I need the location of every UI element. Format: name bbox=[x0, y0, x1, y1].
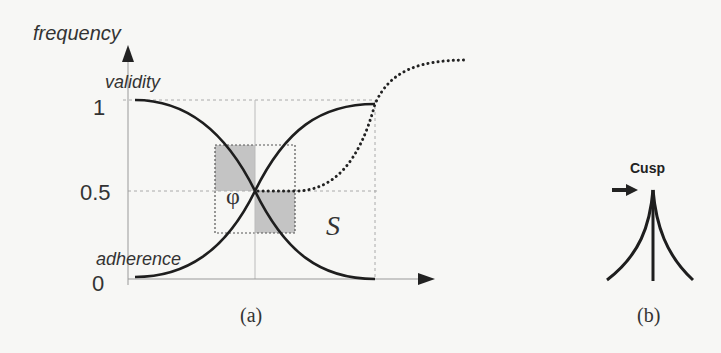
adherence-label: adherence bbox=[96, 249, 181, 269]
cusp-right-branch bbox=[653, 190, 693, 280]
y-axis-label: frequency bbox=[33, 22, 122, 44]
y-tick-0: 0 bbox=[92, 271, 104, 296]
caption-b: (b) bbox=[637, 304, 660, 327]
y-tick-0-5: 0.5 bbox=[80, 180, 111, 205]
dotted-curve bbox=[258, 60, 468, 191]
x-axis-arrow-icon bbox=[418, 273, 435, 285]
y-axis-arrow-icon bbox=[122, 45, 134, 62]
panel-a: frequency validity adherence 1 0.5 0 φ S… bbox=[33, 22, 468, 327]
panel-b: Cusp (b) bbox=[607, 160, 693, 327]
cusp-arrow-icon bbox=[626, 184, 638, 196]
validity-label: validity bbox=[105, 72, 161, 92]
cusp-title: Cusp bbox=[630, 160, 665, 176]
phi-label: φ bbox=[226, 183, 240, 209]
cusp-left-branch bbox=[607, 190, 653, 280]
y-tick-1: 1 bbox=[93, 95, 105, 120]
figure: frequency validity adherence 1 0.5 0 φ S… bbox=[0, 0, 721, 353]
caption-a: (a) bbox=[240, 304, 262, 327]
s-label: S bbox=[326, 210, 340, 241]
